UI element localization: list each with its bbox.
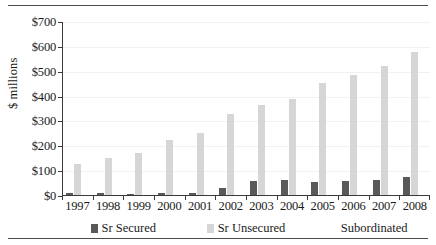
y-tick-mark <box>58 72 62 73</box>
x-axis-cell: 2003 <box>246 196 277 214</box>
x-axis-cell: 2005 <box>307 196 338 214</box>
y-axis-title: $ millions <box>6 58 21 109</box>
legend-item[interactable]: Sr Secured <box>62 220 185 236</box>
y-tick-label: $400 <box>32 90 56 103</box>
x-tick-label: 1998 <box>93 200 124 214</box>
bottom-divider-rule <box>8 238 428 239</box>
x-axis: 1997199819992000200120022003200420052006… <box>62 196 430 214</box>
legend-label: Sr Secured <box>102 222 157 235</box>
y-tick-label: $300 <box>32 115 56 128</box>
y-tick-mark <box>58 171 62 172</box>
legend-label: Sr Unsecured <box>218 222 286 235</box>
legend-swatch <box>207 224 214 233</box>
x-tick-label: 2005 <box>307 200 338 214</box>
x-tick-label: 1997 <box>62 200 93 214</box>
y-tick-label: $100 <box>32 165 56 178</box>
legend-item[interactable]: Sr Unsecured <box>185 220 308 236</box>
y-tick-label: $500 <box>32 65 56 78</box>
x-axis-cell: 2006 <box>338 196 369 214</box>
y-tick-mark <box>58 97 62 98</box>
x-axis-cell: 1998 <box>93 196 124 214</box>
chart-legend: Sr SecuredSr UnsecuredSubordinated <box>62 220 430 236</box>
y-tick-label: $600 <box>32 41 56 54</box>
y-tick-mark <box>58 47 62 48</box>
y-tick-mark <box>58 22 62 23</box>
top-divider-rule <box>8 5 428 6</box>
y-tick-label: $200 <box>32 140 56 153</box>
x-axis-cell: 2008 <box>399 196 430 214</box>
x-tick-label: 2002 <box>215 200 246 214</box>
x-axis-cell: 1997 <box>62 196 93 214</box>
y-tick-label: $700 <box>32 16 56 29</box>
legend-label: Subordinated <box>341 222 408 235</box>
x-tick-label: 2001 <box>185 200 216 214</box>
x-axis-cell: 2002 <box>215 196 246 214</box>
legend-swatch <box>91 224 98 233</box>
y-tick-mark <box>58 146 62 147</box>
x-tick-label: 1999 <box>123 200 154 214</box>
x-axis-cell: 2000 <box>154 196 185 214</box>
x-tick-label: 2004 <box>277 200 308 214</box>
y-tick-label: $0 <box>44 190 56 203</box>
x-tick-label: 2000 <box>154 200 185 214</box>
x-tick-label: 2003 <box>246 200 277 214</box>
chart-figure: $ millions $0$100$200$300$400$500$600$70… <box>0 0 436 245</box>
plot-frame <box>62 22 430 196</box>
x-tick-label: 2006 <box>338 200 369 214</box>
x-tick-label: 2007 <box>369 200 400 214</box>
y-tick-mark <box>58 121 62 122</box>
x-axis-cell: 2004 <box>277 196 308 214</box>
legend-swatch <box>330 224 337 233</box>
legend-item[interactable]: Subordinated <box>307 220 430 236</box>
x-tick-label: 2008 <box>399 200 430 214</box>
x-axis-cell: 1999 <box>123 196 154 214</box>
x-axis-cell: 2001 <box>185 196 216 214</box>
plot-area: $0$100$200$300$400$500$600$700 <box>62 22 430 196</box>
x-axis-cell: 2007 <box>369 196 400 214</box>
